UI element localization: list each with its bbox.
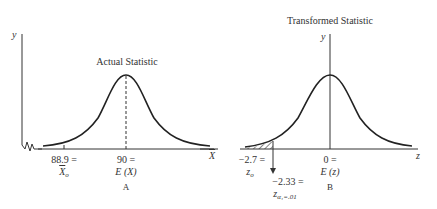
panel-b-tick-zo-value: −2.7 = — [239, 154, 265, 165]
subscript: o — [65, 171, 69, 179]
arrow-down-icon — [270, 168, 276, 174]
panel-b-tick-crit-symbol: zα₁=.01 — [273, 188, 297, 203]
panel-b-tick-crit-value: −2.33 = — [272, 176, 303, 187]
panel-a-tick-center-symbol: E (X) — [115, 166, 136, 177]
panel-b-tick-center-symbol: E (z) — [320, 166, 339, 177]
panel-b-tick-zo-symbol: zo — [246, 166, 253, 181]
panel-b-y-label: y — [321, 31, 325, 42]
panel-b-tick-center-value: 0 = — [323, 154, 336, 165]
subscript: α₁=.01 — [277, 193, 297, 201]
panel-a-tick-left-value: 88.9 = — [51, 154, 77, 165]
axis-break-icon — [22, 142, 42, 151]
panel-b-title: Transformed Statistic — [287, 15, 373, 26]
panel-b-x-label: z — [416, 150, 420, 161]
panel-a-y-label: y — [12, 29, 16, 40]
panel-b-left-axis-label: X — [209, 150, 215, 161]
panel-a-tick-center-value: 90 = — [117, 154, 135, 165]
panel-a-normal-curve — [43, 75, 210, 146]
panel-a-caption: A — [123, 182, 130, 193]
panel-a-tick-left-symbol: Xo — [59, 166, 69, 181]
panel-b-normal-curve — [245, 75, 412, 147]
panel-a-title: Actual Statistic — [96, 56, 157, 67]
panel-b — [200, 34, 418, 174]
panel-a — [22, 34, 218, 151]
panel-b-caption: B — [327, 182, 333, 193]
subscript: o — [250, 171, 254, 179]
